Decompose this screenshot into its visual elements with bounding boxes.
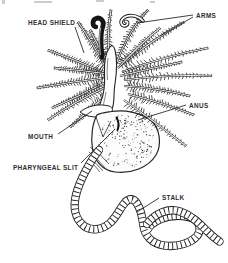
page-edge-artifacts (2, 0, 155, 4)
label-head-shield: HEAD SHIELD (28, 19, 75, 26)
label-arms: ARMS (196, 12, 217, 19)
trunk-sac-shape (89, 111, 159, 172)
label-stalk: STALK (162, 194, 185, 201)
diagram-labels: HEAD SHIELD ARMS ANUS MOUTH PHARYNGEAL S… (13, 12, 217, 201)
organism-illustration: HEAD SHIELD ARMS ANUS MOUTH PHARYNGEAL S… (0, 0, 228, 263)
diagram-page: HEAD SHIELD ARMS ANUS MOUTH PHARYNGEAL S… (0, 0, 228, 263)
label-mouth: MOUTH (28, 133, 53, 140)
label-pharyngeal-slit: PHARYNGEAL SLIT (13, 164, 78, 171)
label-anus: ANUS (189, 102, 209, 109)
